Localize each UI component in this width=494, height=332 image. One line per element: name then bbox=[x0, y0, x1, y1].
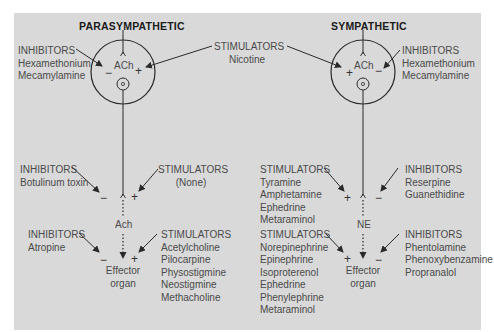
drug-item: Pilocarpine bbox=[161, 254, 231, 267]
parasympathetic-title: PARASYMPATHETIC bbox=[79, 20, 185, 32]
stimulators-label: STIMULATORS bbox=[214, 41, 280, 54]
drug-item: Amphetamine bbox=[260, 189, 330, 202]
drug-item: Phentolamine bbox=[405, 242, 493, 255]
drug-item: Ephedrine bbox=[260, 279, 330, 292]
stimulators-label: STIMULATORS bbox=[260, 164, 330, 177]
para-post-transmitter: Ach bbox=[114, 219, 133, 232]
drug-item: Botulinum toxin bbox=[20, 177, 88, 190]
plus-sign: + bbox=[344, 253, 351, 265]
stimulators-label: STIMULATORS bbox=[260, 229, 330, 242]
symp-effector-organ: Effector organ bbox=[343, 265, 383, 290]
drug-item: Methacholine bbox=[161, 292, 231, 305]
drug-item: (None) bbox=[158, 177, 224, 190]
inhibitors-label: INHIBITORS bbox=[405, 164, 465, 177]
plus-sign: + bbox=[346, 67, 353, 79]
inhibitors-label: INHIBITORS bbox=[402, 45, 475, 58]
para-post-inhibitors: INHIBITORS Botulinum toxin bbox=[20, 164, 88, 189]
para-ganglion-transmitter: ACh bbox=[114, 60, 133, 73]
drug-item: Metaraminol bbox=[260, 304, 330, 317]
stimulators-label: STIMULATORS bbox=[161, 229, 231, 242]
drug-item: Tyramine bbox=[260, 177, 330, 190]
drug-item: Guanethidine bbox=[405, 189, 465, 202]
inhibitors-label: INHIBITORS bbox=[28, 229, 85, 242]
sympathetic-neuron-body bbox=[357, 78, 369, 90]
symp-post-transmitter: NE bbox=[356, 219, 372, 232]
inhibitors-label: INHIBITORS bbox=[20, 164, 88, 177]
drug-item: Norepinephrine bbox=[260, 242, 330, 255]
minus-sign: − bbox=[375, 65, 382, 77]
drug-item: Mecamylamine bbox=[402, 70, 475, 83]
drug-item: Mecamylamine bbox=[18, 70, 91, 83]
symp-effector-inhibitors: INHIBITORS Phentolamine Phenoxybenzamine… bbox=[405, 229, 493, 279]
symp-ganglion-inhibitors: INHIBITORS Hexamethonium Mecamylamine bbox=[402, 45, 475, 83]
parasympathetic-neuron-body bbox=[117, 78, 129, 90]
plus-sign: + bbox=[131, 191, 138, 203]
plus-sign: + bbox=[344, 192, 351, 204]
drug-item: Phenoxybenzamine bbox=[405, 254, 493, 267]
para-effector-organ: Effector organ bbox=[103, 265, 143, 290]
drug-item: Ephedrine bbox=[260, 202, 330, 215]
para-effector-stimulators: STIMULATORS Acetylcholine Pilocarpine Ph… bbox=[161, 229, 231, 304]
symp-effector-stimulators: STIMULATORS Norepinephrine Epinephrine I… bbox=[260, 229, 330, 317]
ganglion-stimulators: STIMULATORS Nicotine bbox=[214, 41, 280, 66]
sympathetic-title: SYMPATHETIC bbox=[331, 20, 407, 32]
drug-item: Nicotine bbox=[214, 54, 280, 67]
drug-item: Atropine bbox=[28, 242, 85, 255]
drug-item: Neostigmine bbox=[161, 279, 231, 292]
inhibitors-label: INHIBITORS bbox=[18, 45, 91, 58]
drug-item: Phenylephrine bbox=[260, 292, 330, 305]
symp-ganglion-transmitter: ACh bbox=[354, 60, 373, 73]
stimulators-label: STIMULATORS bbox=[158, 164, 224, 177]
drug-item: Hexamethonium bbox=[402, 58, 475, 71]
plus-sign: + bbox=[131, 253, 138, 265]
plus-sign: + bbox=[135, 65, 142, 77]
drug-item: Metaraminol bbox=[260, 214, 330, 227]
symp-post-inhibitors: INHIBITORS Reserpine Guanethidine bbox=[405, 164, 465, 202]
minus-sign: − bbox=[105, 67, 112, 79]
para-ganglion-inhibitors: INHIBITORS Hexamethonium Mecamylamine bbox=[18, 45, 91, 83]
para-effector-inhibitors: INHIBITORS Atropine bbox=[28, 229, 85, 254]
minus-sign: − bbox=[100, 192, 107, 204]
drug-item: Physostigmine bbox=[161, 267, 231, 280]
para-post-stimulators: STIMULATORS (None) bbox=[158, 164, 224, 189]
drug-item: Hexamethonium bbox=[18, 58, 91, 71]
inhibitors-label: INHIBITORS bbox=[405, 229, 493, 242]
drug-item: Acetylcholine bbox=[161, 242, 231, 255]
symp-post-stimulators: STIMULATORS Tyramine Amphetamine Ephedri… bbox=[260, 164, 330, 227]
drug-item: Epinephrine bbox=[260, 254, 330, 267]
minus-sign: − bbox=[375, 192, 382, 204]
drug-item: Reserpine bbox=[405, 177, 465, 190]
drug-item: Isoproterenol bbox=[260, 267, 330, 280]
drug-item: Propranalol bbox=[405, 267, 493, 280]
